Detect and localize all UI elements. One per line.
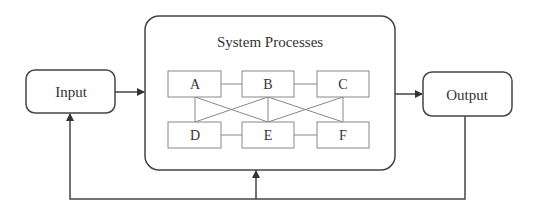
process-D: D	[168, 122, 221, 148]
process-D-label: D	[190, 128, 200, 143]
process-E-label: E	[264, 128, 273, 143]
input-node: Input	[26, 70, 115, 113]
output-node: Output	[423, 72, 512, 116]
process-F: F	[317, 122, 369, 148]
system-processes-title: System Processes	[217, 34, 323, 50]
process-C-label: C	[338, 77, 347, 92]
process-C: C	[317, 71, 369, 97]
process-F-label: F	[339, 128, 347, 143]
output-label: Output	[446, 87, 489, 103]
process-A-label: A	[190, 77, 201, 92]
process-E: E	[242, 122, 294, 148]
input-label: Input	[55, 84, 87, 100]
process-B-label: B	[263, 77, 272, 92]
system-diagram: System Processes Input Output A B	[0, 0, 536, 217]
process-A: A	[168, 71, 221, 97]
process-B: B	[242, 71, 294, 97]
